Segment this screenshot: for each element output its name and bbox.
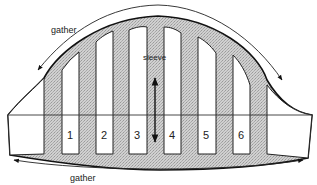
gather-label-top: gather: [51, 25, 77, 35]
left-end-piece: [8, 78, 44, 155]
right-end-piece: [267, 85, 312, 158]
sleeve-pattern-diagram: gather gather sleeve 1 2 3 4 5 6: [0, 0, 317, 185]
sleeve-label: sleeve: [143, 53, 167, 62]
gather-label-bottom: gather: [70, 173, 96, 183]
strip-number-6: 6: [238, 129, 244, 141]
strip-number-2: 2: [101, 129, 107, 141]
strip-number-5: 5: [203, 129, 209, 141]
strip-number-3: 3: [134, 129, 140, 141]
strip-number-1: 1: [67, 129, 73, 141]
spread-sleeve-outline: [8, 16, 312, 170]
strip-number-4: 4: [169, 129, 175, 141]
